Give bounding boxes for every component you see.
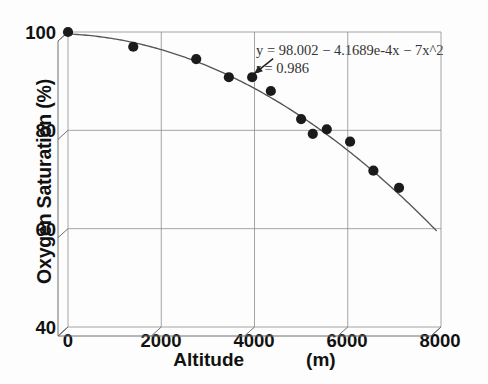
data-point [224, 72, 234, 82]
data-point [266, 86, 276, 96]
data-point [368, 166, 378, 176]
data-point [394, 183, 404, 193]
data-point [191, 54, 201, 64]
data-point [345, 137, 355, 147]
data-point [63, 27, 73, 37]
fit-curve [68, 34, 436, 231]
plot-canvas [0, 0, 488, 384]
data-point [296, 114, 306, 124]
data-point [247, 72, 257, 82]
annotation-arrow [254, 59, 273, 74]
figure-oxygen-saturation-vs-altitude: Oxygen Saturation (%) 100 80 60 40 0 200… [0, 0, 488, 384]
data-point-group [63, 27, 404, 193]
data-point [128, 42, 138, 52]
data-point [308, 129, 318, 139]
data-point [322, 124, 332, 134]
